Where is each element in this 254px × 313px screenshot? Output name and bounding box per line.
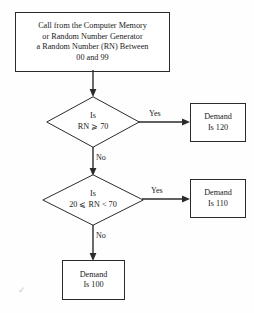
outcome-demand-100-box: Demand Is 100 [62,260,125,300]
edge-label-yes-2: Yes [151,187,163,195]
outcome-demand-110-box: Demand Is 110 [190,179,246,218]
connector-decision-2-yes [142,193,192,207]
decision-rn-ge-70: Is RN ⩾ 70 [46,96,140,148]
connector-start-to-decision-1 [84,70,102,98]
start-box-line-2: or Random Number Generator [42,32,142,43]
edge-label-yes-1: Yes [149,110,161,118]
start-box-line-1: Call from the Computer Memory [38,21,147,32]
demand-120-line-1: Demand [204,112,232,123]
demand-120-line-2: Is 120 [208,123,228,134]
demand-100-line-2: Is 100 [83,280,103,291]
connector-decision-1-no [84,147,102,177]
decision-diamond-shape [42,174,144,226]
start-box-line-4: 00 and 99 [76,53,108,64]
edge-label-no-2: No [96,232,106,240]
start-box-line-3: a Random Number (RN) Between [37,42,149,53]
flowchart-diagram: Call from the Computer Memory or Random … [0,0,254,313]
decision-rn-between-20-70: Is 20 ⩽ RN < 70 [42,174,144,226]
scan-artifact-mark: ✓ [18,287,25,294]
connector-decision-1-yes [138,116,192,130]
demand-100-line-1: Demand [80,270,108,281]
edge-label-no-1: No [96,154,106,162]
start-process-box: Call from the Computer Memory or Random … [15,12,170,72]
demand-110-line-2: Is 110 [208,199,228,210]
demand-110-line-1: Demand [204,188,232,199]
decision-diamond-shape [46,96,140,148]
outcome-demand-120-box: Demand Is 120 [190,103,246,142]
